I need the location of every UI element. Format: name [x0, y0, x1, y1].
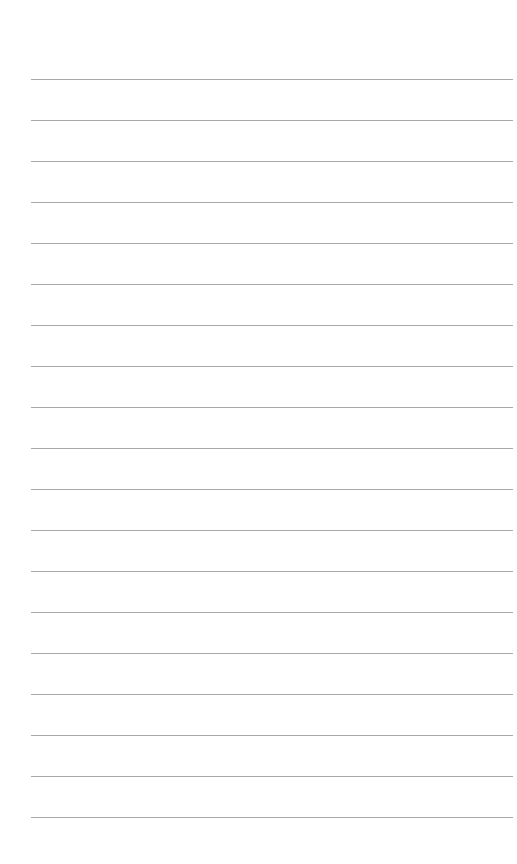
ruled-line: [31, 448, 513, 449]
ruled-line: [31, 530, 513, 531]
ruled-line: [31, 407, 513, 408]
ruled-line: [31, 284, 513, 285]
ruled-line: [31, 612, 513, 613]
lined-paper-page: [0, 0, 517, 864]
ruled-line: [31, 776, 513, 777]
ruled-line: [31, 735, 513, 736]
ruled-line: [31, 325, 513, 326]
ruled-line: [31, 120, 513, 121]
ruled-line: [31, 202, 513, 203]
ruled-line: [31, 653, 513, 654]
ruled-line: [31, 817, 513, 818]
ruled-line: [31, 366, 513, 367]
ruled-line: [31, 489, 513, 490]
ruled-line: [31, 243, 513, 244]
ruled-line: [31, 161, 513, 162]
ruled-line: [31, 571, 513, 572]
ruled-line: [31, 79, 513, 80]
ruled-line: [31, 694, 513, 695]
